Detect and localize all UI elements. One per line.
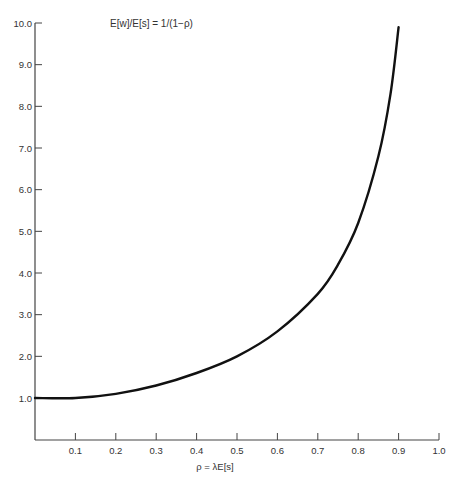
y-tick-label: 10.0 <box>14 18 33 29</box>
y-tick-label: 6.0 <box>19 184 32 195</box>
x-tick-label: 0.9 <box>392 445 405 456</box>
series-line-0 <box>35 27 399 398</box>
axes <box>35 23 439 440</box>
y-tick-label: 1.0 <box>19 393 32 404</box>
x-tick-label: 0.8 <box>352 445 365 456</box>
x-tick-label: 0.7 <box>311 445 324 456</box>
x-axis-label: ρ = λE[s] <box>196 461 233 472</box>
ticks: 1.02.03.04.05.06.07.08.09.010.00.10.20.3… <box>14 18 446 457</box>
x-tick-label: 0.3 <box>150 445 163 456</box>
x-tick-label: 0.2 <box>109 445 122 456</box>
y-tick-label: 9.0 <box>19 59 32 70</box>
x-tick-label: 0.5 <box>230 445 243 456</box>
y-tick-label: 7.0 <box>19 143 32 154</box>
y-tick-label: 5.0 <box>19 226 32 237</box>
y-tick-label: 4.0 <box>19 268 32 279</box>
chart: E[w]/E[s] = 1/(1−ρ) 1.02.03.04.05.06.07.… <box>0 0 459 480</box>
y-tick-label: 3.0 <box>19 309 32 320</box>
chart-title: E[w]/E[s] = 1/(1−ρ) <box>110 18 193 29</box>
x-tick-label: 1.0 <box>432 445 445 456</box>
x-tick-label: 0.4 <box>190 445 203 456</box>
y-tick-label: 2.0 <box>19 351 32 362</box>
marks <box>35 27 399 398</box>
x-tick-label: 0.6 <box>271 445 284 456</box>
y-tick-label: 8.0 <box>19 101 32 112</box>
x-tick-label: 0.1 <box>69 445 82 456</box>
